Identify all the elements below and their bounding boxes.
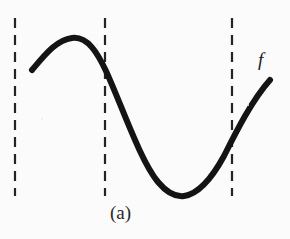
figure-panel-a: f (a) [0,0,290,239]
figure-background [0,0,290,239]
figure-graphic [0,0,290,239]
function-label-f: f [258,50,263,69]
panel-label: (a) [110,203,131,222]
